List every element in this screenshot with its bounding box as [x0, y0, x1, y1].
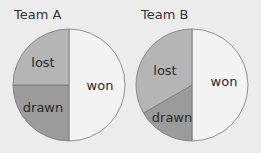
- team-b-drawn-label: drawn: [152, 110, 192, 125]
- team-b-lost-label: lost: [153, 63, 176, 78]
- team-b-won-label: won: [211, 74, 238, 89]
- team-a-drawn-label: drawn: [23, 100, 63, 115]
- team-a-lost-label: lost: [31, 55, 54, 70]
- pie-charts: won lost drawn won lost drawn: [0, 0, 261, 153]
- team-a-won-label: won: [87, 78, 114, 93]
- team-a-pie: won lost drawn: [13, 29, 125, 141]
- team-b-pie: won lost drawn: [136, 29, 248, 141]
